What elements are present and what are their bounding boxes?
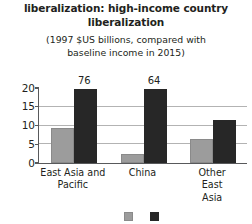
chart-title-line-2: liberalization [88,16,164,28]
legend-item [124,212,136,221]
x-axis-label-line: Pacific [58,179,89,190]
x-axis-category-labels: East Asia andPacificChinaOther East Asia [38,167,247,197]
bar [190,139,213,163]
x-axis-category-label: East Asia andPacific [40,167,105,192]
bar [74,89,97,163]
plot-area [39,89,247,163]
bar [213,120,236,163]
y-axis-tick-mark [35,106,39,107]
x-axis-label-line: East Asia and [40,167,105,178]
legend-swatch [124,212,133,221]
x-axis-label-line: China [129,167,156,178]
y-axis-tick-label: 5 [28,139,35,150]
y-axis-tick-label: 0 [28,158,35,169]
y-axis-tick-label: 15 [22,101,35,112]
chart-figure: liberalization: high-income country libe… [0,0,252,224]
chart-subtitle-line-1: (1997 $US billions, compared with [46,34,206,45]
bar-value-labels: 7664 [38,74,247,89]
y-axis-tick-label: 20 [22,83,35,94]
chart-title-line-1: liberalization: high-income country [24,2,228,14]
bar [144,89,167,163]
chart-subtitle-line-2: baseline income in 2015) [67,47,185,58]
legend-item [150,212,162,221]
y-axis-tick-mark [35,162,39,163]
legend-swatch [150,212,159,221]
bar-value-label: 64 [148,74,161,88]
y-axis-tick-mark [35,125,39,126]
y-axis-tick-label: 10 [22,120,35,131]
bar [51,128,74,163]
x-axis-label-line: Other East Asia [199,167,226,203]
bar [121,154,144,163]
chart-subtitle: (1997 $US billions, compared with baseli… [0,34,252,59]
bar-value-label: 76 [78,74,91,88]
title-block: liberalization: high-income country libe… [0,0,252,59]
chart-legend [38,212,247,224]
chart-axes: 05101520 [38,89,247,164]
plot-wrapper: 7664 05101520 East Asia andPacificChinaO… [0,74,252,224]
x-axis-category-label: China [129,167,156,179]
x-axis-category-label: Other East Asia [195,167,230,204]
chart-title: liberalization: high-income country libe… [0,2,252,29]
y-axis-tick-mark [35,144,39,145]
y-axis-tick-mark [35,87,39,88]
